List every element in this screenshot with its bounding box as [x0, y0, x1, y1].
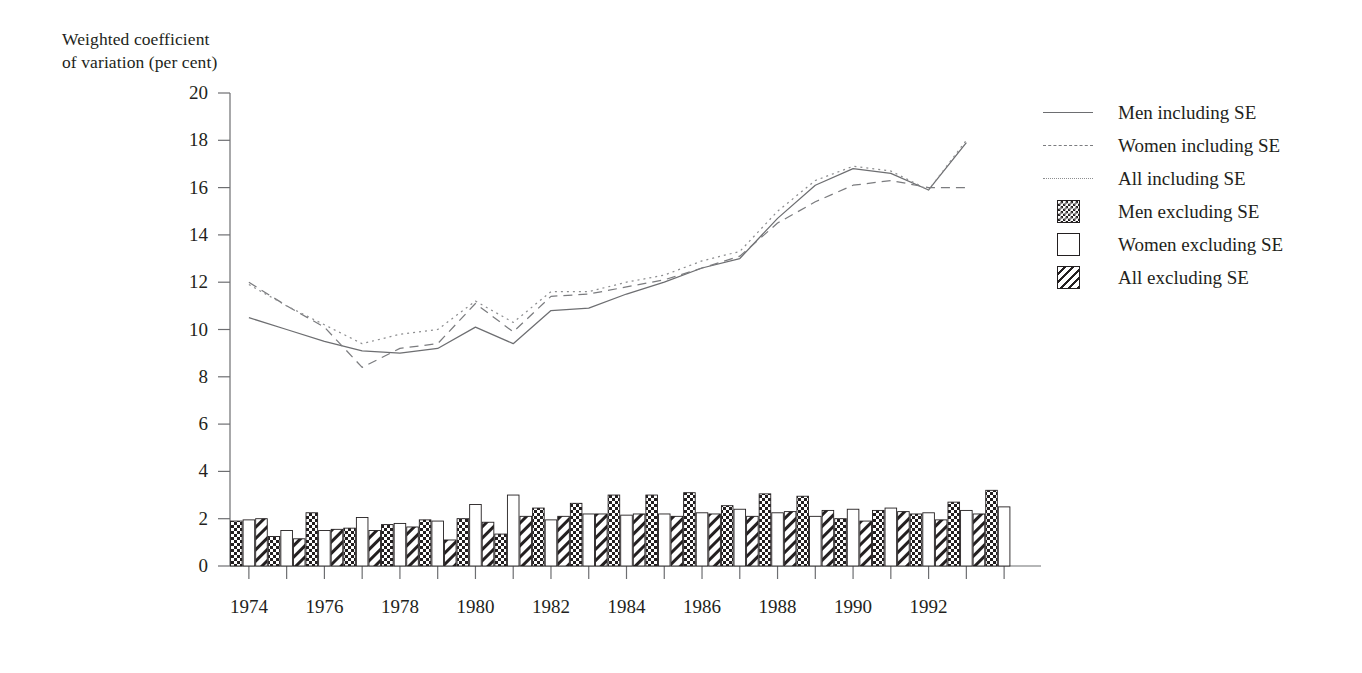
bar-men-1985	[646, 495, 658, 566]
bar-all-1990	[860, 521, 872, 566]
bar-women-1991	[885, 508, 897, 566]
bar-all-1984	[633, 514, 645, 566]
bar-men-1992	[910, 514, 922, 566]
bar-men-1977	[344, 528, 356, 566]
bar-all-1991	[898, 512, 910, 566]
bar-men-1983	[570, 503, 582, 566]
bar-men-1978	[382, 525, 394, 566]
line-dashed	[249, 181, 966, 368]
bar-all-1993	[973, 514, 985, 566]
x-tick-label: 1986	[667, 596, 737, 618]
legend-item-men-excluding-se[interactable]: Men excluding SE	[1040, 195, 1350, 228]
bar-women-1976	[319, 531, 331, 566]
x-tick-label: 1980	[440, 596, 510, 618]
bar-men-1994	[986, 490, 998, 566]
chart-legend: Men including SE Women including SE All …	[1040, 96, 1350, 294]
bar-all-1980	[482, 522, 494, 566]
bar-men-1993	[948, 502, 960, 566]
x-tick-label: 1984	[592, 596, 662, 618]
x-tick-label: 1990	[818, 596, 888, 618]
y-tick-label: 14	[168, 224, 208, 246]
line-group	[249, 140, 966, 367]
bar-men-1988	[759, 494, 771, 566]
bar-men-1974	[231, 521, 243, 566]
bar-men-1990	[835, 519, 847, 566]
x-tick-label: 1976	[289, 596, 359, 618]
legend-item-all-including-se[interactable]: All including SE	[1040, 162, 1350, 195]
bar-women-1977	[356, 518, 368, 566]
y-tick-label: 12	[168, 271, 208, 293]
bar-all-1986	[709, 514, 721, 566]
bar-men-1986	[684, 493, 696, 566]
bar-women-1981	[507, 495, 519, 566]
bar-group	[231, 490, 1010, 566]
x-tick-label: 1982	[516, 596, 586, 618]
y-tick-label: 4	[168, 460, 208, 482]
x-tick-label: 1992	[894, 596, 964, 618]
bar-women-1983	[583, 514, 595, 566]
legend-item-women-excluding-se[interactable]: Women excluding SE	[1040, 228, 1350, 261]
bar-men-1980	[457, 519, 469, 566]
bar-women-1993	[961, 510, 973, 566]
bar-all-1974	[256, 519, 268, 566]
bar-women-1988	[772, 513, 784, 566]
bar-men-1976	[306, 513, 318, 566]
bar-women-1986	[696, 513, 708, 566]
y-tick-label: 10	[168, 319, 208, 341]
bar-men-1975	[268, 536, 280, 566]
y-tick-label: 0	[168, 555, 208, 577]
bar-men-1982	[533, 508, 545, 566]
bar-all-1987	[747, 516, 759, 566]
y-tick-label: 16	[168, 177, 208, 199]
y-tick-label: 2	[168, 508, 208, 530]
bar-all-1992	[935, 520, 947, 566]
bar-men-1979	[419, 520, 431, 566]
bar-all-1978	[407, 527, 419, 566]
line-solid	[249, 143, 966, 353]
line-dotted-icon	[1040, 166, 1096, 192]
legend-item-all-excluding-se[interactable]: All excluding SE	[1040, 261, 1350, 294]
bar-all-1983	[596, 514, 608, 566]
legend-label: All including SE	[1096, 168, 1246, 190]
legend-item-men-including-se[interactable]: Men including SE	[1040, 96, 1350, 129]
bar-all-1975	[293, 539, 305, 566]
line-dashed-icon	[1040, 133, 1096, 159]
bar-women-1994	[998, 507, 1010, 566]
bar-men-1984	[608, 495, 620, 566]
y-tick-label: 6	[168, 413, 208, 435]
bar-women-1987	[734, 509, 746, 566]
bar-all-1979	[444, 540, 456, 566]
bar-women-1990	[847, 509, 859, 566]
bar-all-1977	[369, 531, 381, 566]
bar-men-1989	[797, 496, 809, 566]
swatch-plain-icon	[1040, 232, 1096, 258]
bar-all-1985	[671, 516, 683, 566]
bar-women-1989	[810, 516, 822, 566]
y-tick-label: 18	[168, 129, 208, 151]
bar-women-1975	[281, 531, 293, 566]
bar-women-1985	[658, 514, 670, 566]
bar-women-1978	[394, 523, 406, 566]
bar-men-1981	[495, 534, 507, 566]
legend-label: Men excluding SE	[1096, 201, 1259, 223]
bar-women-1979	[432, 521, 444, 566]
x-tick-label: 1988	[743, 596, 813, 618]
bar-all-1981	[520, 516, 532, 566]
y-tick-label: 20	[168, 82, 208, 104]
bar-women-1992	[923, 513, 935, 566]
legend-label: All excluding SE	[1096, 267, 1249, 289]
legend-label: Women including SE	[1096, 135, 1280, 157]
line-solid-icon	[1040, 100, 1096, 126]
bar-all-1976	[331, 529, 343, 566]
bar-women-1982	[545, 520, 557, 566]
legend-item-women-including-se[interactable]: Women including SE	[1040, 129, 1350, 162]
bar-women-1984	[621, 515, 633, 566]
chart-figure: Weighted coefficient of variation (per c…	[0, 0, 1362, 673]
x-tick-label: 1974	[214, 596, 284, 618]
bar-all-1989	[822, 510, 834, 566]
bar-men-1991	[872, 510, 884, 566]
axes	[218, 93, 1041, 579]
legend-label: Women excluding SE	[1096, 234, 1283, 256]
bar-women-1974	[243, 520, 255, 566]
bar-all-1988	[784, 512, 796, 566]
